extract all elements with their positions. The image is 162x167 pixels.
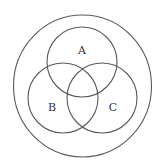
universe-circle	[14, 15, 152, 157]
set-b-label: B	[48, 101, 56, 114]
set-b-circle	[28, 63, 98, 133]
set-a-circle	[47, 27, 117, 97]
set-c-label: C	[109, 101, 117, 114]
set-a-label: A	[77, 44, 87, 57]
set-c-circle	[67, 63, 137, 133]
venn-diagram: A B C	[0, 0, 162, 167]
